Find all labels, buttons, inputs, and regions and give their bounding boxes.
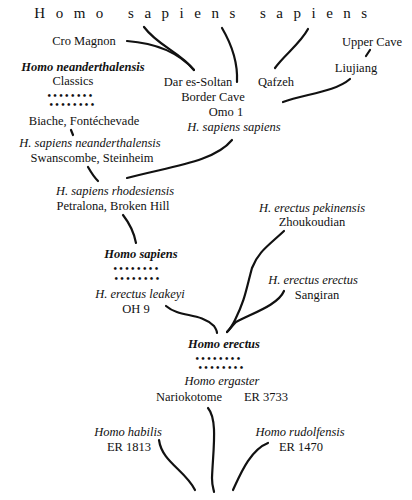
branch-biache-to-h-s-neanderthalensis [71,130,73,135]
branch-rudolfensis-to-root [233,443,268,490]
label-homo-habilis: Homo habilis [94,425,162,439]
label-oh-9: OH 9 [122,302,149,316]
label-liujiang: Liujiang [335,61,377,75]
label-h-erectus-leakeyi: H. erectus leakeyi [95,287,184,301]
label-er-1470: ER 1470 [279,440,323,454]
dotted-gap-sapiens-2: •••••••• [114,275,161,283]
label-homo-sapiens: Homo sapiens [104,247,177,261]
label-er-3733: ER 3733 [244,390,288,404]
branch-sangiran-to-homo-erectus [227,291,284,332]
label-omo-1: Omo 1 [209,105,243,119]
label-border-cave: Border Cave [181,90,245,104]
branch-petralona-to-homo-sapiens [123,215,136,243]
label-h-erectus-pekinensis: H. erectus pekinensis [259,201,365,215]
branch-swanscombe-to-rhodesiensis [88,167,98,181]
label-er-1813: ER 1813 [107,440,151,454]
label-dar-es-soltan: Dar es-Soltan [164,75,232,89]
label-swanscombe-steinheim: Swanscombe, Steinheim [31,151,154,165]
label-petralona-broken-hill: Petralona, Broken Hill [57,199,170,213]
label-cro-magnon: Cro Magnon [52,34,116,48]
label-homo-ergaster: Homo ergaster [185,374,260,388]
label-sangiran: Sangiran [295,288,339,302]
label-classics: Classics [53,74,94,88]
branch-habilis-to-root [159,440,195,490]
label-homo-neanderthalensis: Homo neanderthalensis [21,60,144,74]
branch-title-to-border-cave [222,28,237,82]
label-upper-cave: Upper Cave [342,35,402,49]
branch-upper-cave-to-liujiang [366,50,370,56]
branch-title-to-qafzeh [275,29,308,68]
label-nariokotome: Nariokotome [156,390,222,404]
label-homo-erectus: Homo erectus [188,337,260,351]
title-homo-sapiens-sapiens: Homo sapiens sapiens [34,6,377,20]
label-h-sapiens-rhodesiensis: H. sapiens rhodesiensis [56,184,174,198]
dotted-gap-neanderthal-2: •••••••• [49,101,96,109]
label-h-sapiens-sapiens: H. sapiens sapiens [187,120,280,134]
label-homo-rudolfensis: Homo rudolfensis [255,425,344,439]
hominin-phylogeny-diagram: Homo sapiens sapiens Cro Magnon Upper Ca… [0,0,412,500]
dotted-gap-sapiens-1: •••••••• [113,265,160,273]
label-biache-fontechevade: Biache, Fontéchevade [29,114,139,128]
label-h-erectus-erectus: H. erectus erectus [268,273,358,287]
label-h-sapiens-neanderthalensis: H. sapiens neanderthalensis [19,136,160,150]
dotted-gap-erectus-2: •••••••• [198,364,245,372]
branch-ergaster-to-root [208,408,214,492]
label-zhoukoudian: Zhoukoudian [279,215,346,229]
branch-oh9-to-homo-erectus [166,306,217,333]
label-qafzeh: Qafzeh [258,75,294,89]
